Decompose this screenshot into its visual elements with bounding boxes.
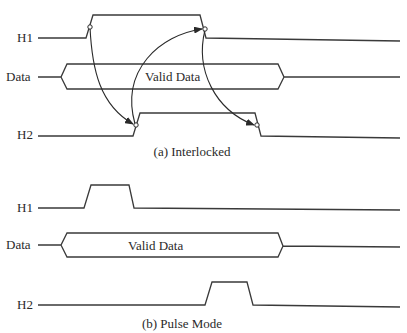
signal-data-bus [38, 64, 400, 89]
panel-interlocked: H1 Data Valid Data H2 (a) Interlocked [6, 15, 400, 159]
signal-h1 [38, 185, 400, 210]
signal-data-bus [38, 233, 400, 257]
label-data: Data [6, 69, 31, 84]
bus-text-valid-data: Valid Data [145, 69, 200, 84]
signal-h2 [38, 282, 400, 307]
timing-diagram: H1 Data Valid Data H2 (a) Interlocked H1… [0, 0, 407, 333]
panel-pulse-mode: H1 Data Valid Data H2 (b) Pulse Mode [6, 185, 400, 331]
signal-h2 [38, 113, 400, 138]
bus-text-valid-data: Valid Data [128, 238, 183, 253]
label-h2: H2 [17, 297, 33, 312]
event-dot-h1-fall [203, 27, 207, 31]
event-dot-h2-fall [255, 123, 259, 127]
arrow-h1-rise-to-h2-rise [90, 27, 133, 124]
label-data: Data [6, 237, 31, 252]
caption-interlocked: (a) Interlocked [154, 144, 231, 159]
event-dot-h2-rise [134, 123, 138, 127]
label-h1: H1 [17, 200, 33, 215]
caption-pulse-mode: (b) Pulse Mode [142, 316, 222, 331]
arrow-h1-fall-to-h2-fall [202, 30, 254, 125]
label-h2: H2 [17, 127, 33, 142]
event-dot-h1-rise [88, 25, 92, 29]
label-h1: H1 [17, 30, 33, 45]
